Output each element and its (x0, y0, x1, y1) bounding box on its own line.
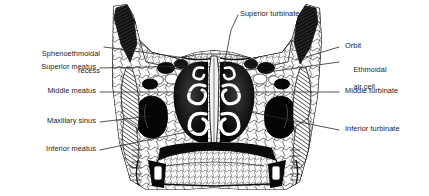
label-inferior-meatus: Inferior meatus (0, 145, 96, 154)
label-superior-turbinate: Superior turbinate (240, 10, 360, 19)
label-middle-turbinate: Middle turbinate (345, 87, 429, 96)
label-superior-turbinate-text: Superior turbinate (240, 9, 299, 18)
label-inferior-meatus-text: Inferior meatus (46, 144, 96, 153)
label-middle-meatus-text: Middle meatus (47, 86, 96, 95)
label-ethmoidal-air-cell-line1: Ethmoidal (353, 65, 386, 74)
label-maxillary-sinus-text: Maxillary sinus (47, 116, 96, 125)
label-maxillary-sinus: Maxillary sinus (0, 117, 96, 126)
label-orbit: Orbit (345, 42, 429, 51)
label-superior-meatus-text: Superior meatus (41, 62, 96, 71)
label-inferior-turbinate-text: Inferior turbinate (345, 124, 400, 133)
label-orbit-text: Orbit (345, 41, 361, 50)
label-inferior-turbinate: Inferior turbinate (345, 125, 429, 134)
label-middle-meatus: Middle meatus (0, 87, 96, 96)
anatomical-figure: Sphenoethmoidal recess Superior meatus M… (0, 0, 429, 196)
label-middle-turbinate-text: Middle turbinate (345, 86, 398, 95)
label-sphenoethmoidal-recess-line1: Sphenoethmoidal (42, 49, 100, 58)
label-superior-meatus: Superior meatus (0, 63, 96, 72)
